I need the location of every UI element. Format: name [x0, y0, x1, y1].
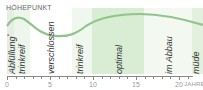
x-tick: [136, 76, 137, 80]
phase-label-optimal: optimal: [114, 45, 124, 74]
phase-label-im-abbau: im Abbau: [164, 36, 174, 74]
wine-maturity-chart: HÖHEPUNKT Abfüllung* trinkreif verschlos…: [0, 0, 203, 90]
x-tick: [179, 76, 180, 80]
x-tick: [41, 76, 42, 79]
phase-label-trinkreif: trinkreif: [75, 44, 85, 74]
x-tick: [7, 76, 8, 80]
x-tick-label-5: 5: [48, 81, 52, 88]
x-tick: [93, 76, 94, 80]
x-tick-label-0: 0: [5, 81, 9, 88]
x-tick-label-20: 20: [175, 81, 183, 88]
x-tick: [188, 76, 189, 79]
phase-label-muede: müde: [191, 51, 201, 74]
x-tick: [50, 76, 51, 80]
x-tick: [24, 76, 25, 79]
x-tick: [127, 76, 128, 79]
x-tick: [145, 76, 146, 79]
phase-label-abfuellung: Abfüllung*: [6, 34, 17, 74]
x-axis-unit: JAHRE: [184, 81, 203, 87]
x-tick: [16, 76, 17, 79]
x-tick-label-15: 15: [132, 81, 140, 88]
x-tick: [59, 76, 60, 79]
x-tick: [76, 76, 77, 79]
x-tick: [102, 76, 103, 79]
x-tick: [110, 76, 111, 79]
x-tick: [67, 76, 68, 79]
x-tick: [162, 76, 163, 79]
x-tick: [119, 76, 120, 79]
phase-label-verschlossen: verschlossen: [46, 21, 56, 74]
x-axis: [7, 76, 193, 77]
x-tick: [84, 76, 85, 79]
x-tick: [33, 76, 34, 79]
phase-label-trinkreif-early: trinkreif: [17, 44, 27, 74]
x-tick-label-10: 10: [89, 81, 97, 88]
x-tick: [170, 76, 171, 79]
x-tick: [153, 76, 154, 79]
